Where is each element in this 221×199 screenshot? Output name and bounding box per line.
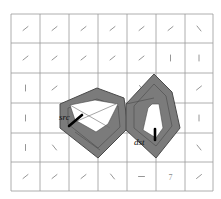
src-label: src	[59, 112, 70, 122]
grid-diagram: 7 src dst	[0, 0, 221, 199]
cell-orientation-glyph: 7	[169, 173, 173, 182]
dst-label: dst	[134, 137, 145, 147]
